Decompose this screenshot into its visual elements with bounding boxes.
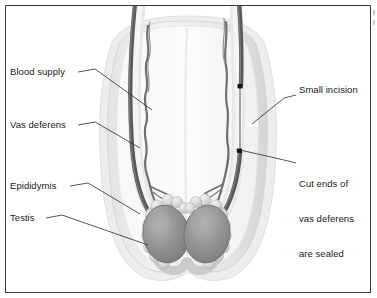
label-cut-ends-line-3: are sealed bbox=[299, 248, 354, 260]
label-epididymis: Epididymis bbox=[10, 180, 56, 192]
cut-end-marker-icon-lower bbox=[237, 149, 242, 153]
label-blood-supply: Blood supply bbox=[10, 66, 65, 78]
incision-notch-icon bbox=[247, 121, 258, 128]
scan-artifact-lower bbox=[373, 20, 375, 25]
label-cut-ends-line-1: Cut ends of bbox=[299, 178, 354, 190]
label-testis: Testis bbox=[10, 212, 35, 224]
figure-root: Blood supply Vas deferens Epididymis Tes… bbox=[0, 0, 377, 298]
label-cut-ends-of-vas-deferens-are-sealed: Cut ends of vas deferens are sealed bbox=[299, 155, 354, 283]
label-small-incision: Small incision bbox=[299, 84, 358, 96]
scan-artifact-upper bbox=[373, 10, 375, 15]
label-vas-deferens: Vas deferens bbox=[10, 119, 66, 131]
label-cut-ends-line-2: vas deferens bbox=[299, 213, 354, 225]
